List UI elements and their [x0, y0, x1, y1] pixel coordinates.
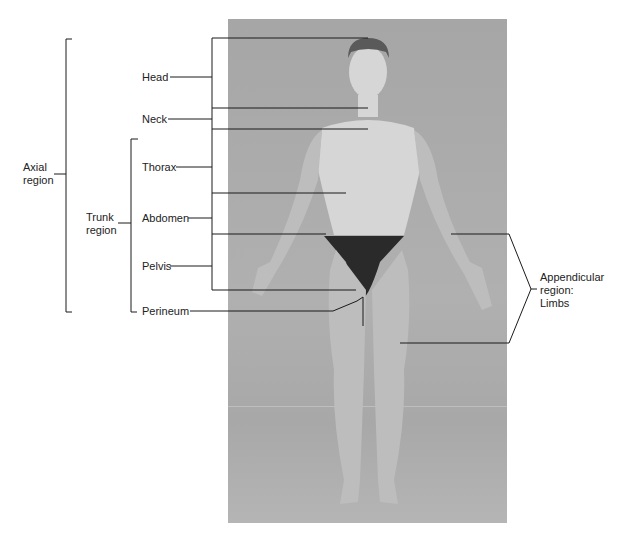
axial-bracket	[54, 39, 72, 312]
label-axial-region: Axial region	[23, 161, 54, 187]
label-appendicular-region: Appendicular region: Limbs	[540, 271, 604, 310]
trunk-bracket	[118, 139, 138, 312]
label-trunk-region: Trunk region	[86, 211, 117, 237]
label-thorax: Thorax	[142, 161, 176, 174]
label-pelvis: Pelvis	[142, 260, 171, 273]
figure-silhouette	[0, 0, 619, 537]
label-perineum: Perineum	[142, 305, 189, 318]
label-abdomen: Abdomen	[142, 212, 189, 225]
label-head: Head	[142, 71, 168, 84]
appendicular-bracket	[400, 234, 537, 343]
label-neck: Neck	[142, 113, 167, 126]
body-regions-figure: Axial region Trunk region Head Neck Thor…	[0, 0, 619, 537]
